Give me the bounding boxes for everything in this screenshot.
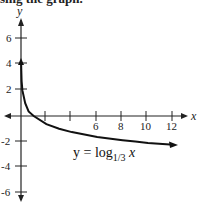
equation-label: y = log1/3 x (73, 145, 135, 163)
y-tick-label: -6 (1, 186, 11, 198)
equation-var: x (129, 145, 135, 160)
y-tick-label: -4 (1, 160, 11, 172)
y-tick-label: -2 (1, 135, 10, 147)
equation-base: 1/3 (113, 152, 126, 163)
log-graph: x y 6 8 10 12 6 4 2 -2 -4 -6 (0, 0, 202, 204)
log-curve (21, 62, 170, 144)
y-axis-label: y (16, 4, 23, 18)
y-tick-label: 4 (6, 57, 12, 69)
curve-arrow-icon (169, 142, 178, 149)
y-axis-arrow-down-icon (18, 195, 24, 202)
x-tick-label: 6 (93, 120, 99, 132)
equation-lhs: y = log (73, 145, 113, 160)
x-axis-arrow-right-icon (181, 113, 188, 119)
x-tick-label: 10 (140, 120, 152, 132)
x-tick-label: 8 (118, 120, 124, 132)
y-tick-label: 2 (6, 83, 12, 95)
y-axis-arrow-up-icon (18, 18, 24, 26)
x-axis-label: x (190, 109, 197, 123)
x-axis-arrow-left-icon (4, 113, 11, 119)
y-tick-label: 6 (6, 32, 12, 44)
x-tick-label: 12 (166, 120, 177, 132)
curve-arrow-up-icon (18, 58, 24, 65)
